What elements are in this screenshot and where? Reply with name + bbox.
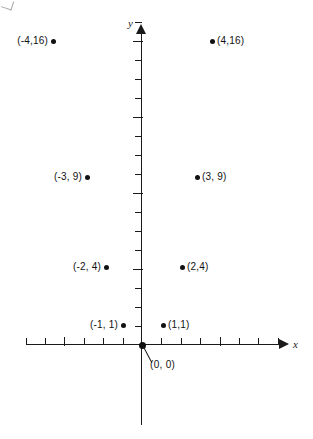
x-axis-tick [64, 337, 65, 346]
y-axis-tick [133, 269, 143, 270]
data-point [121, 323, 126, 328]
y-axis-tick [135, 307, 142, 308]
origin-point-label: (0, 0) [150, 360, 175, 370]
data-point-label: (2,4) [187, 262, 209, 272]
data-point-label: (-1, 1) [90, 320, 118, 330]
y-axis-tick [133, 193, 143, 194]
data-point-label: (1,1) [168, 320, 190, 330]
x-axis-tick [123, 338, 124, 345]
x-axis-tick [239, 338, 240, 345]
data-point-label: (-3, 9) [54, 172, 82, 182]
data-point [195, 175, 200, 180]
x-axis-tick [220, 337, 221, 346]
data-point-label: (3, 9) [202, 172, 227, 182]
x-axis-tick [161, 338, 162, 345]
y-axis-line [141, 33, 142, 425]
y-axis-label: y [128, 18, 133, 29]
data-point [51, 39, 56, 44]
data-point-label: (-2, 4) [73, 262, 101, 272]
scan-artifact-mark [1, 0, 14, 10]
y-axis-tick [135, 288, 142, 289]
y-axis-tick [135, 250, 142, 251]
data-point-label: (4,16) [217, 36, 244, 46]
y-axis-tick [135, 136, 142, 137]
x-axis-tick [181, 338, 182, 345]
y-axis-tick [135, 60, 142, 61]
x-axis-tick [278, 338, 279, 345]
y-axis-tick [135, 98, 142, 99]
x-axis-tick [45, 338, 46, 345]
data-point [161, 323, 166, 328]
y-axis-tick [135, 326, 142, 327]
x-axis-label: x [293, 339, 298, 350]
coordinate-plane-figure: x y (-4,16)(-3, 9)(-2, 4)(-1, 1)(1,1)(2,… [0, 0, 313, 439]
y-axis-tick [135, 212, 142, 213]
x-axis-tick [103, 338, 104, 345]
x-axis-tick [26, 338, 27, 345]
data-point [104, 265, 109, 270]
data-point [210, 39, 215, 44]
y-axis-tick [135, 231, 142, 232]
x-axis-arrow-icon [279, 339, 289, 349]
data-point-label: (-4,16) [17, 36, 48, 46]
y-axis-tick [133, 117, 143, 118]
y-axis-tick [133, 41, 143, 42]
x-axis-tick [258, 338, 259, 345]
x-axis-tick [84, 338, 85, 345]
y-axis-tick [135, 174, 142, 175]
y-axis-tick [135, 79, 142, 80]
y-axis-tick [135, 22, 142, 23]
y-axis-tick [135, 155, 142, 156]
y-axis-arrow-icon [136, 24, 146, 34]
x-axis-tick [200, 338, 201, 345]
data-point [85, 175, 90, 180]
data-point [180, 265, 185, 270]
